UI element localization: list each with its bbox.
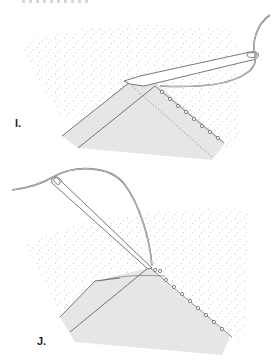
step-i-group <box>20 15 270 160</box>
step-i-label: I. <box>15 117 21 129</box>
sewing-illustration <box>0 0 272 360</box>
step-j-group <box>12 169 248 355</box>
step-j-label: J. <box>37 335 46 347</box>
